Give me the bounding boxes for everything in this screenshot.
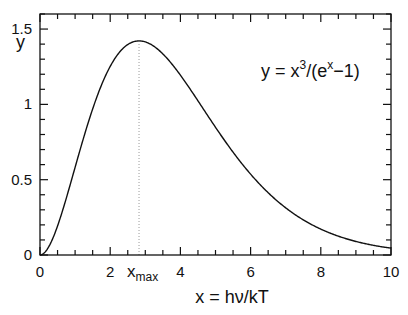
x-axis-label: x = hν/kT <box>195 287 269 307</box>
plot-frame <box>40 14 391 255</box>
x-tick-label: 10 <box>383 263 400 280</box>
y-tick-label: 0 <box>24 246 32 263</box>
axis-ticks <box>40 14 391 255</box>
x-tick-label: 6 <box>246 263 254 280</box>
y-tick-label: 0.5 <box>11 171 32 188</box>
formula-annotation: y = x3/(ex−1) <box>261 58 360 81</box>
x-tick-label: 0 <box>36 263 44 280</box>
xmax-label: xmax <box>127 262 158 284</box>
x-tick-label: 2 <box>106 263 114 280</box>
y-axis-label: y <box>16 32 25 52</box>
planck-plot: 024681000.511.5 y y = x3/(ex−1) xmax x =… <box>0 0 408 315</box>
chart-container: 024681000.511.5 y y = x3/(ex−1) xmax x =… <box>0 0 408 315</box>
x-tick-label: 4 <box>176 263 184 280</box>
x-tick-label: 8 <box>317 263 325 280</box>
y-tick-label: 1 <box>24 95 32 112</box>
tick-labels: 024681000.511.5 <box>11 20 399 280</box>
